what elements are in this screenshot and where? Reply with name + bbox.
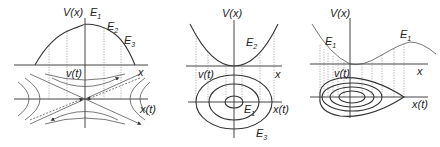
phase-x-label-2: x(t) bbox=[272, 103, 289, 115]
energy-label-e3-p2: E3 bbox=[256, 127, 267, 141]
phase-v-label-3: v(t) bbox=[334, 67, 350, 79]
energy-label-e1-left-p3: E1 bbox=[325, 35, 336, 49]
phase-portrait-figure: V(x) E1 E2 E3 x v(t) x(t) V(x) E2 bbox=[0, 0, 440, 147]
panel-2-center: V(x) E2 E1 E3 x v(t) x(t) bbox=[186, 7, 289, 141]
panel-1-saddle: V(x) E1 E2 E3 x v(t) x(t) bbox=[14, 6, 156, 128]
potential-label-1: V(x) bbox=[63, 6, 84, 18]
phase-v-label-1: v(t) bbox=[66, 67, 82, 79]
energy-label-e1-right-p3: E1 bbox=[400, 28, 411, 42]
energy-label-e1-p1: E1 bbox=[90, 6, 101, 20]
x-axis-label-1: x bbox=[137, 66, 144, 78]
energy-label-e2-p1: E2 bbox=[107, 20, 118, 34]
phase-x-label-3: x(t) bbox=[411, 98, 428, 110]
phase-v-label-2: v(t) bbox=[198, 68, 214, 80]
panel-3-cubic: V(x) E1 E1 x v(t) x(t) bbox=[310, 7, 436, 118]
x-axis-label-2: x bbox=[274, 68, 281, 80]
potential-label-3: V(x) bbox=[330, 7, 351, 19]
energy-label-e2-p2: E2 bbox=[246, 36, 257, 50]
potential-label-2: V(x) bbox=[222, 7, 243, 19]
phase-x-label-1: x(t) bbox=[139, 103, 156, 115]
x-axis-label-3: x bbox=[416, 65, 423, 77]
energy-label-e3-p1: E3 bbox=[124, 34, 135, 48]
energy-label-e1-p2: E1 bbox=[244, 103, 255, 117]
